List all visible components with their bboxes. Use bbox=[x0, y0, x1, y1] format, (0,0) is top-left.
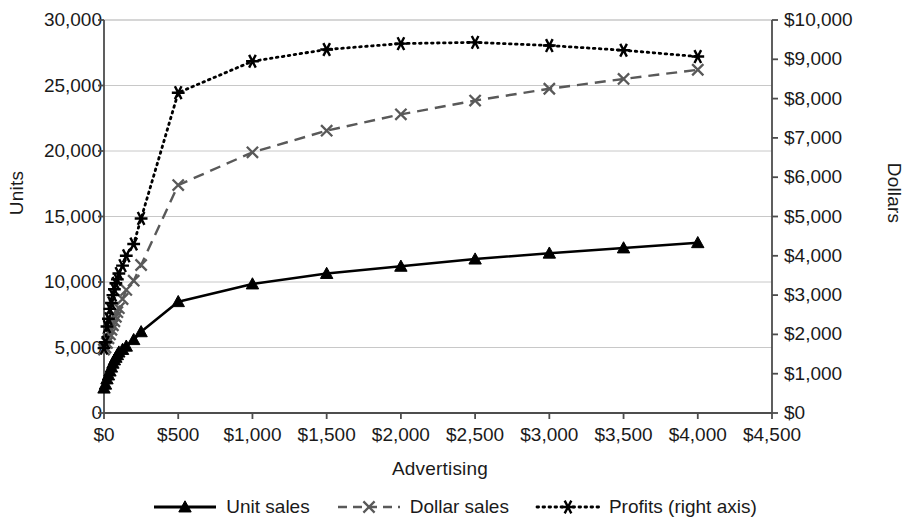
series-line bbox=[104, 42, 698, 348]
dotted-line-asterisk-marker-icon bbox=[535, 497, 601, 517]
dashed-line-x-marker-icon bbox=[336, 497, 402, 517]
legend-item-3[interactable]: Profits (right axis) bbox=[535, 496, 757, 518]
data-marker bbox=[247, 147, 258, 158]
series-line bbox=[104, 70, 698, 350]
series-3 bbox=[98, 36, 705, 355]
data-series-layer bbox=[98, 36, 705, 393]
data-marker bbox=[246, 55, 259, 68]
series-1 bbox=[98, 237, 704, 394]
legend-label: Dollar sales bbox=[410, 496, 509, 518]
data-marker bbox=[543, 39, 556, 52]
data-marker bbox=[172, 86, 185, 99]
data-marker bbox=[691, 50, 704, 63]
data-marker bbox=[136, 259, 147, 270]
data-marker bbox=[469, 36, 482, 49]
legend-label: Profits (right axis) bbox=[609, 496, 757, 518]
advertising-response-chart: Units Dollars Advertising 05,00010,00015… bbox=[0, 0, 909, 526]
gridlines bbox=[104, 20, 772, 348]
data-marker bbox=[128, 275, 139, 286]
legend-item-2[interactable]: Dollar sales bbox=[336, 496, 509, 518]
data-marker bbox=[617, 44, 630, 57]
axis-tick-marks bbox=[98, 20, 778, 419]
data-marker bbox=[320, 43, 333, 56]
data-marker bbox=[562, 501, 575, 514]
solid-line-triangle-marker-icon bbox=[152, 497, 218, 517]
data-marker bbox=[173, 179, 184, 190]
legend-label: Unit sales bbox=[226, 496, 309, 518]
chart-legend: Unit salesDollar salesProfits (right axi… bbox=[0, 496, 909, 518]
series-2 bbox=[98, 64, 703, 355]
plot-area bbox=[0, 0, 909, 526]
data-marker bbox=[394, 37, 407, 50]
legend-item-1[interactable]: Unit sales bbox=[152, 496, 309, 518]
